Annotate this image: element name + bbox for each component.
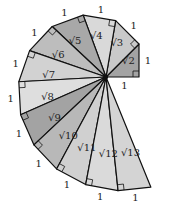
hypotenuse-label: √11 [77,142,96,153]
leg-label: 1 [145,55,151,66]
leg-label: 1 [132,192,138,203]
hypotenuse-label: √5 [69,35,82,46]
first-leg-label: 1 [121,80,127,91]
hypotenuse-label: √9 [48,112,61,123]
center-point [104,75,108,79]
hypotenuse-label: √7 [42,69,55,80]
leg-label: 1 [36,158,42,169]
hypotenuse-label: √13 [121,147,140,158]
leg-label: 1 [61,7,67,18]
leg-label: 1 [98,4,104,15]
hypotenuse-label: √6 [52,49,65,60]
leg-label: 1 [97,191,103,202]
leg-label: 1 [13,58,19,69]
spiral-svg: 1√21√31√41√51√61√71√81√91√101√111√121√13… [0,0,175,203]
hypotenuse-label: √2 [122,55,135,66]
leg-label: 1 [31,27,37,38]
hypotenuse-label: √3 [110,37,123,48]
leg-label: 1 [16,128,22,139]
hypotenuse-label: √8 [41,91,54,102]
spiral-of-theodorus-diagram: 1√21√31√41√51√61√71√81√91√101√111√121√13… [0,0,175,203]
hypotenuse-label: √10 [59,130,78,141]
leg-label: 1 [8,93,14,104]
leg-label: 1 [64,179,70,190]
hypotenuse-label: √12 [99,148,118,159]
hypotenuse-label: √4 [90,30,103,41]
leg-label: 1 [131,20,137,31]
